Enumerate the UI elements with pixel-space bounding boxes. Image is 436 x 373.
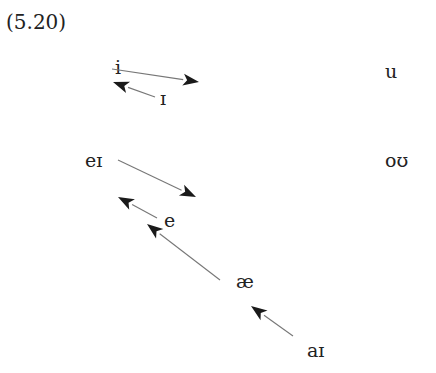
arrow-line	[132, 205, 157, 218]
arrowhead-icon	[113, 82, 130, 93]
arrow-line	[128, 87, 155, 97]
arrowhead-icon	[179, 185, 196, 197]
arrowhead-icon	[251, 306, 268, 320]
vowel-shift-arrows	[0, 0, 436, 373]
arrow-line	[112, 69, 183, 80]
arrow-line	[264, 315, 293, 336]
arrowhead-icon	[147, 224, 163, 238]
arrowhead-icon	[182, 74, 199, 86]
arrow-line	[160, 234, 220, 280]
arrowhead-icon	[118, 197, 135, 210]
arrow-line	[118, 160, 182, 190]
